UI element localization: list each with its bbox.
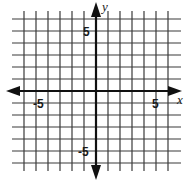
- x-tick-label-pos5: 5: [152, 97, 159, 111]
- coordinate-plane: y x -5 5 5 -5: [0, 0, 188, 183]
- y-axis-down-arrow-icon: [91, 165, 101, 180]
- y-axis-label: y: [100, 0, 108, 14]
- x-tick-label-neg5: -5: [33, 97, 44, 111]
- x-axis-left-arrow-icon: [6, 86, 20, 96]
- y-tick-label-pos5: 5: [83, 25, 90, 39]
- y-tick-label-neg5: -5: [78, 145, 89, 159]
- x-axis-label: x: [176, 92, 183, 107]
- y-axis-up-arrow-icon: [91, 2, 101, 17]
